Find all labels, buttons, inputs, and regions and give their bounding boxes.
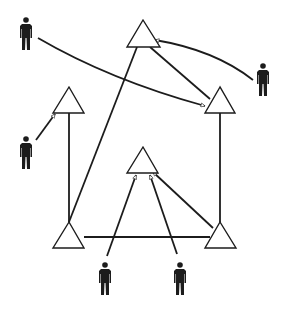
person-icon-right xyxy=(257,63,269,96)
triangle-node-bottom-left[interactable] xyxy=(53,222,84,248)
edge-bottomleft-top xyxy=(69,47,137,222)
triangle-node-left[interactable] xyxy=(53,87,84,113)
arrow-person-bottomright-to-center xyxy=(150,175,177,254)
person-icon-bottom-right xyxy=(174,262,186,295)
triangle-node-top[interactable] xyxy=(127,20,160,47)
person-icon-bottom-left xyxy=(99,262,111,295)
triangle-node-right[interactable] xyxy=(205,87,235,113)
edge-bottomright-center xyxy=(153,172,213,228)
network-diagram xyxy=(0,0,286,309)
arrow-person-bottomleft-to-center xyxy=(107,175,136,256)
arrow-person-left-to-left xyxy=(36,114,55,140)
person-icon-top-left xyxy=(20,17,32,50)
triangle-node-center[interactable] xyxy=(127,147,158,173)
person-icon-left xyxy=(20,136,32,169)
arrow-person-right-to-top xyxy=(155,40,253,80)
